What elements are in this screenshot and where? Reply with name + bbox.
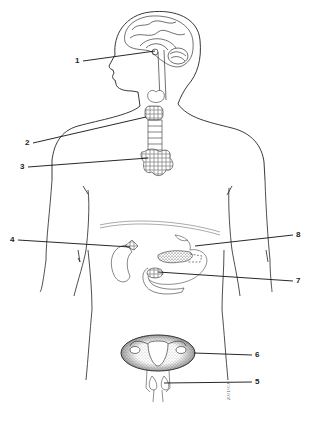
thyroid — [145, 90, 164, 120]
callout-label-2: 2 — [25, 139, 29, 147]
duodenum — [143, 268, 184, 294]
brain — [125, 16, 194, 100]
diaphragm — [100, 221, 220, 235]
callout-label-1: 1 — [75, 57, 79, 65]
anatomy-drawing — [0, 0, 314, 422]
testes — [146, 370, 170, 402]
callout-label-8: 8 — [296, 231, 300, 239]
callout-label-7: 7 — [296, 277, 300, 285]
artist-signature: ZHUCK — [226, 381, 231, 400]
pelvis — [121, 335, 195, 371]
callout-label-5: 5 — [255, 378, 259, 386]
pancreas — [158, 251, 202, 263]
endocrine-diagram: 1 2 3 4 5 6 7 8 ZHUCK — [0, 0, 314, 422]
thymus — [141, 149, 173, 176]
callout-label-4: 4 — [10, 236, 14, 244]
trachea — [148, 120, 162, 150]
callout-label-6: 6 — [255, 351, 259, 359]
callout-label-3: 3 — [20, 163, 24, 171]
